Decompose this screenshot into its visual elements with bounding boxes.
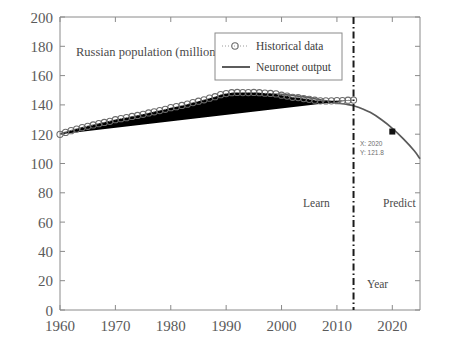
x-tick-label: 1980: [156, 318, 186, 334]
legend-label-neuronet: Neuronet output: [256, 61, 332, 74]
datatip-marker[interactable]: [389, 129, 395, 135]
y-tick-label: 200: [31, 10, 54, 26]
x-tick-label: 1970: [100, 318, 130, 334]
learn-region-label: Learn: [303, 197, 330, 209]
predict-region-label: Predict: [383, 197, 416, 209]
y-tick-label: 100: [31, 156, 54, 172]
y-tick-label: 160: [31, 68, 54, 84]
y-tick-label: 20: [38, 273, 53, 289]
chart-legend: Historical data Neuronet output: [215, 33, 342, 80]
chart-title: Russian population (million): [76, 45, 220, 59]
y-tick-label: 120: [31, 127, 54, 143]
year-axis-label: Year: [367, 278, 388, 290]
x-tick-label: 2020: [377, 318, 407, 334]
x-tick-label: 2010: [322, 318, 352, 334]
y-tick-label: 40: [38, 244, 53, 260]
y-tick-label: 60: [38, 215, 53, 231]
y-tick-label: 140: [31, 97, 54, 113]
datatip-x-value: X: 2020: [360, 140, 383, 147]
x-tick-label: 1990: [211, 318, 241, 334]
y-tick-label: 0: [46, 303, 54, 319]
y-tick-label: 180: [31, 39, 54, 55]
population-forecast-chart: 020406080100120140160180200 196019701980…: [0, 0, 449, 348]
x-tick-label: 2000: [267, 318, 297, 334]
legend-label-historical: Historical data: [256, 40, 323, 52]
datatip-y-value: Y: 121.8: [360, 149, 384, 156]
y-tick-label: 80: [38, 185, 53, 201]
chart-figure: 020406080100120140160180200 196019701980…: [0, 0, 449, 348]
x-tick-label: 1960: [45, 318, 75, 334]
